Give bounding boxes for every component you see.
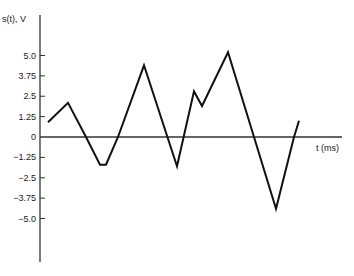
y-tick-label: 5.0: [23, 51, 36, 61]
y-tick-label: 3.75: [18, 71, 36, 81]
y-tick-label: −1.25: [13, 152, 36, 162]
axes: [40, 15, 342, 262]
y-tick-label: −2.5: [18, 173, 36, 183]
y-tick-label: −3.75: [13, 193, 36, 203]
y-tick-label: 2.5: [23, 91, 36, 101]
x-axis-label: t (ms): [316, 143, 339, 153]
y-tick-label: 0: [31, 132, 36, 142]
y-tick-label: −5.0: [18, 214, 36, 224]
signal-chart: 5.03.752.51.250−1.25−2.5−3.75−5.0 s(t), …: [0, 0, 354, 276]
y-tick-label: 1.25: [18, 112, 36, 122]
signal-line: [48, 52, 299, 209]
y-axis-label: s(t), V: [2, 14, 26, 24]
